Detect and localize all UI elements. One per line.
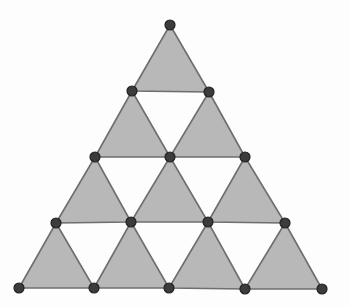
diagram-canvas (0, 0, 349, 307)
vertex-dot (204, 87, 214, 97)
triangle-grid-diagram (0, 0, 349, 307)
vertex-dot (240, 284, 250, 294)
vertex-dot (127, 86, 137, 96)
vertex-dot (317, 284, 327, 294)
shaded-triangle (19, 223, 94, 288)
shaded-triangle (95, 91, 170, 157)
vertex-dot (203, 217, 213, 227)
vertex-dot (90, 152, 100, 162)
vertex-dot (126, 217, 136, 227)
shaded-triangle (132, 25, 209, 92)
shaded-triangle (131, 157, 208, 222)
shaded-triangle (94, 222, 169, 288)
vertex-dot (51, 218, 61, 228)
shaded-triangle (245, 223, 322, 289)
shaded-triangle (56, 157, 131, 223)
shaded-triangle (208, 157, 285, 223)
shaded-triangle (169, 222, 245, 289)
vertex-dot (89, 283, 99, 293)
shaded-triangle (170, 92, 245, 157)
vertex-dot (164, 283, 174, 293)
vertex-dot (165, 20, 175, 30)
vertex-dot (165, 152, 175, 162)
vertex-dot (240, 152, 250, 162)
vertex-dot (14, 283, 24, 293)
vertex-dot (280, 218, 290, 228)
